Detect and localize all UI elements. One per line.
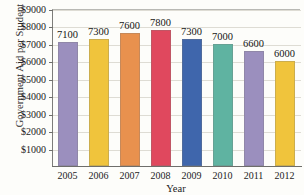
gridline xyxy=(53,10,301,11)
y-tick-label: $5000 xyxy=(0,73,46,84)
bar xyxy=(58,42,78,166)
bar xyxy=(89,39,109,166)
bar xyxy=(275,61,295,166)
y-tick-mark xyxy=(49,45,53,46)
y-tick-mark xyxy=(49,62,53,63)
y-tick-label: $8000 xyxy=(0,21,46,32)
y-tick-mark xyxy=(49,80,53,81)
y-tick-label: $9000 xyxy=(0,4,46,15)
bar-chart-figure: Government Aid per Student $9000$8000$70… xyxy=(0,0,304,195)
bar xyxy=(151,30,171,166)
y-tick-mark xyxy=(49,97,53,98)
bar-value-label: 6600 xyxy=(232,38,276,49)
y-tick-label: $7000 xyxy=(0,38,46,49)
y-tick-label: $3000 xyxy=(0,108,46,119)
bar xyxy=(244,51,264,166)
y-tick-mark xyxy=(49,115,53,116)
x-tick-label: 2012 xyxy=(263,170,305,181)
y-tick-mark xyxy=(49,150,53,151)
y-tick-label: $2000 xyxy=(0,126,46,137)
bar xyxy=(213,44,233,166)
bar xyxy=(182,39,202,166)
y-tick-label: $4000 xyxy=(0,91,46,102)
bar xyxy=(120,33,140,166)
y-tick-mark xyxy=(49,132,53,133)
x-axis-title: Year xyxy=(52,183,300,194)
bar-value-label: 6000 xyxy=(263,48,305,59)
y-tick-mark xyxy=(49,10,53,11)
x-axis-line xyxy=(52,166,302,167)
y-tick-label: $1000 xyxy=(0,143,46,154)
y-tick-label: $6000 xyxy=(0,56,46,67)
